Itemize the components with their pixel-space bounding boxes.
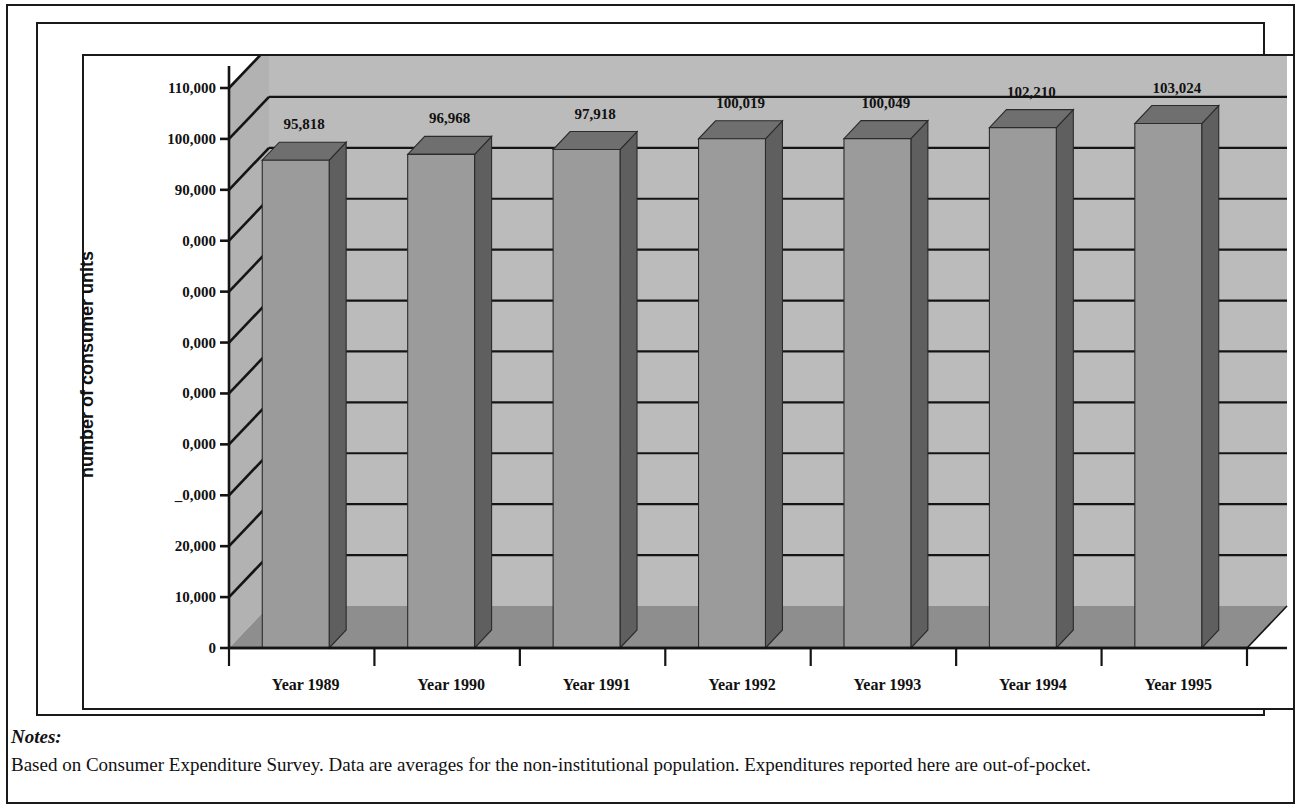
y-axis-tick-label: 100,000	[124, 130, 216, 147]
y-axis-tick-label: 20,000	[124, 538, 216, 555]
notes-heading: Notes:	[11, 726, 1293, 748]
bar-value-label: 95,818	[244, 116, 364, 133]
y-axis-title: number of consumer units	[77, 85, 98, 645]
x-axis-tick-label: Year 1989	[236, 676, 376, 694]
x-axis-tick-label: Year 1990	[381, 676, 521, 694]
y-axis-tick-label: 10,000	[124, 589, 216, 606]
x-axis-tick-label: Year 1994	[963, 676, 1103, 694]
bar-value-label: 100,019	[681, 95, 801, 112]
y-axis-tick-label: 0	[124, 640, 216, 657]
y-axis-tick-label: 0,000	[124, 436, 216, 453]
x-axis-tick-label: Year 1993	[817, 676, 957, 694]
chart-outer-box: 010,00020,000_0,0000,0000,0000,0000,0000…	[36, 22, 1265, 716]
y-axis-tick-label: 90,000	[124, 181, 216, 198]
notes-body: Based on Consumer Expenditure Survey. Da…	[11, 754, 1293, 776]
chart-frame: 010,00020,000_0,0000,0000,0000,0000,0000…	[82, 54, 1295, 710]
bar-value-label: 102,210	[971, 84, 1091, 101]
axis-label-layer: 010,00020,000_0,0000,0000,0000,0000,0000…	[84, 56, 1297, 712]
x-axis-tick-label: Year 1995	[1108, 676, 1248, 694]
y-axis-tick-label: 0,000	[124, 283, 216, 300]
x-axis-tick-label: Year 1991	[527, 676, 667, 694]
chart-page: 010,00020,000_0,0000,0000,0000,0000,0000…	[0, 0, 1303, 812]
x-axis-tick-label: Year 1992	[672, 676, 812, 694]
bar-value-label: 100,049	[826, 95, 946, 112]
plot-area: 010,00020,000_0,0000,0000,0000,0000,0000…	[84, 56, 1297, 712]
y-axis-tick-label: 110,000	[124, 80, 216, 97]
bar-value-label: 97,918	[535, 106, 655, 123]
y-axis-tick-label: 0,000	[124, 334, 216, 351]
y-axis-tick-label: _0,000	[124, 487, 216, 504]
bar-value-label: 96,968	[390, 110, 510, 127]
notes-block: Notes: Based on Consumer Expenditure Sur…	[8, 726, 1293, 776]
bar-value-label: 103,024	[1117, 80, 1237, 97]
y-axis-tick-label: 0,000	[124, 385, 216, 402]
y-axis-tick-label: 0,000	[124, 232, 216, 249]
